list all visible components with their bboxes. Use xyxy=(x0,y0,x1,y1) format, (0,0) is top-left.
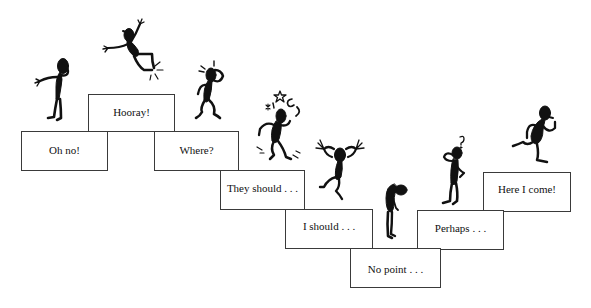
step-hooray: Hooray! xyxy=(88,94,175,132)
step-oh-no: Oh no! xyxy=(21,131,108,171)
step-label: I should . . . xyxy=(303,220,355,248)
step-i-should: I should . . . xyxy=(285,209,373,249)
step-perhaps: Perhaps . . . xyxy=(417,210,504,250)
figure-confused-icon xyxy=(188,58,233,126)
staircase-diagram: Hooray! Oh no! Where? They should . . . … xyxy=(0,0,591,308)
figure-leaping-joy-icon xyxy=(100,18,172,83)
figure-head-in-hand-icon xyxy=(30,55,75,123)
step-label: Here I come! xyxy=(498,183,556,211)
figure-dizzy-stars-icon xyxy=(252,87,304,165)
step-here-i-come: Here I come! xyxy=(483,172,571,212)
figure-slumped-despair-icon xyxy=(378,178,412,243)
step-label: Perhaps . . . xyxy=(435,222,486,249)
figure-running-icon xyxy=(505,102,559,167)
figure-pondering-question-icon xyxy=(438,133,472,209)
step-label: Where? xyxy=(179,144,213,170)
step-label: They should . . . xyxy=(227,182,298,209)
step-no-point: No point . . . xyxy=(350,248,441,288)
step-label: Hooray! xyxy=(113,106,150,131)
figure-tearing-hair-icon xyxy=(312,135,364,203)
step-where: Where? xyxy=(154,131,239,171)
step-they-should: They should . . . xyxy=(220,170,305,210)
step-label: No point . . . xyxy=(368,263,423,287)
step-label: Oh no! xyxy=(49,144,80,170)
